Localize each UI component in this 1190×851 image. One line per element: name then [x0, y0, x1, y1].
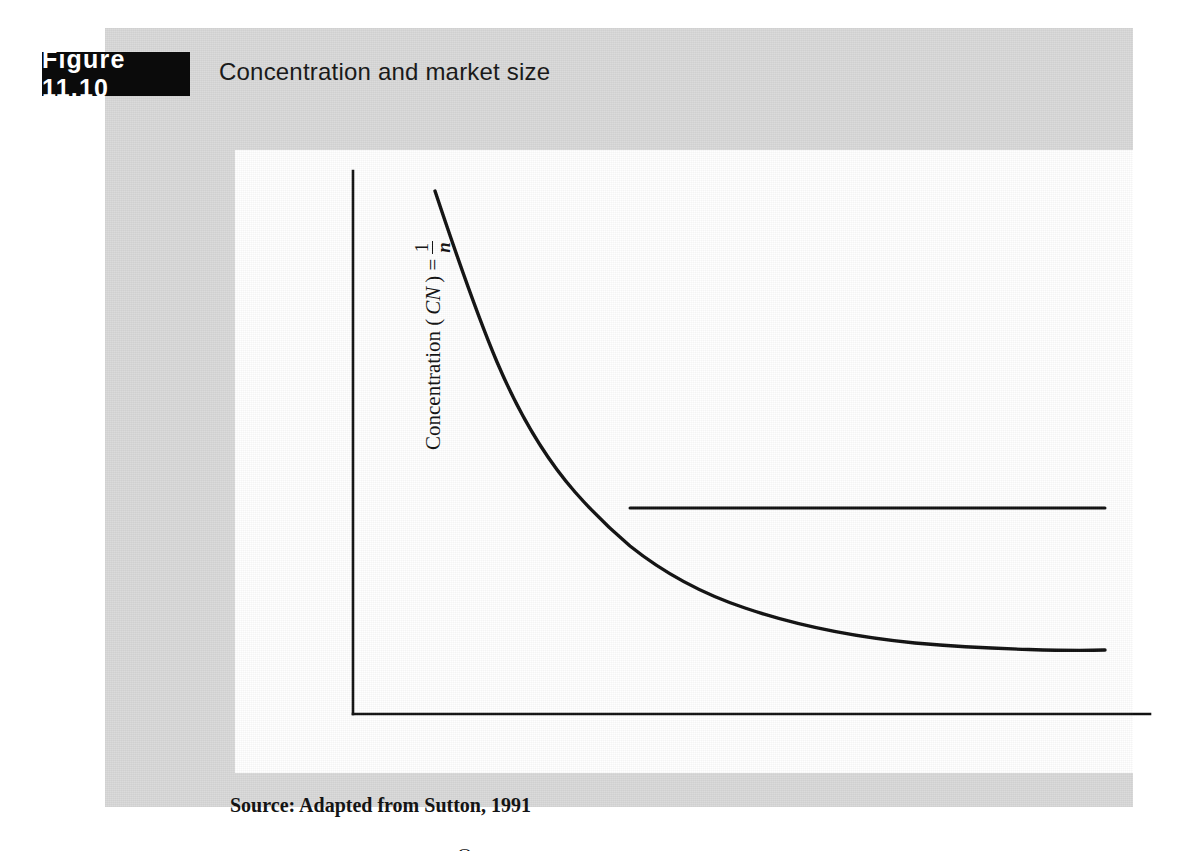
plot-svg	[235, 150, 1190, 773]
y-axis-label-mid: ) =	[421, 259, 446, 283]
y-axis-label-cn: CN	[421, 287, 446, 315]
figure-panel: Concentration (CN) = 1 n O Market size C…	[105, 28, 1133, 807]
fraction-denominator: n	[433, 240, 453, 255]
figure-number-badge: Figure 11.10	[42, 52, 190, 96]
y-axis-label-prefix: Concentration (	[421, 319, 446, 450]
fraction-numerator: 1	[412, 241, 433, 255]
figure-title: Concentration and market size	[219, 58, 550, 86]
plot-card: Concentration (CN) = 1 n O Market size C…	[235, 150, 1190, 773]
source-note: Source: Adapted from Sutton, 1991	[230, 794, 531, 817]
y-axis-fraction: 1 n	[412, 240, 453, 255]
origin-label: O	[457, 844, 472, 851]
cnx-curve	[435, 191, 1105, 650]
y-axis-label: Concentration (CN) = 1 n	[413, 240, 454, 450]
